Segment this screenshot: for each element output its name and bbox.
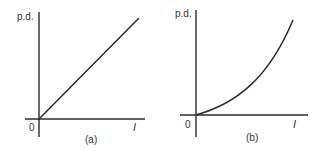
graph-a-origin-label: 0: [29, 122, 35, 133]
graph-b-caption: (b): [246, 132, 258, 143]
graph-b-origin-label: 0: [185, 119, 191, 130]
graph-b: p.d. 0 I (b): [175, 8, 308, 143]
pd-vs-current-diagram: p.d. 0 I (a) p.d. 0 I (b): [0, 0, 320, 151]
graph-b-y-axis-label: p.d.: [175, 8, 192, 19]
graph-a-y-axis-label: p.d.: [17, 11, 34, 22]
graph-b-nonlinear-curve: [196, 20, 293, 115]
graph-a-x-axis-label: I: [133, 121, 136, 133]
graph-b-x-axis-label: I: [293, 118, 296, 130]
graph-a-caption: (a): [85, 134, 97, 145]
graph-a-linear-line: [39, 18, 139, 119]
graph-a: p.d. 0 I (a): [17, 11, 145, 145]
